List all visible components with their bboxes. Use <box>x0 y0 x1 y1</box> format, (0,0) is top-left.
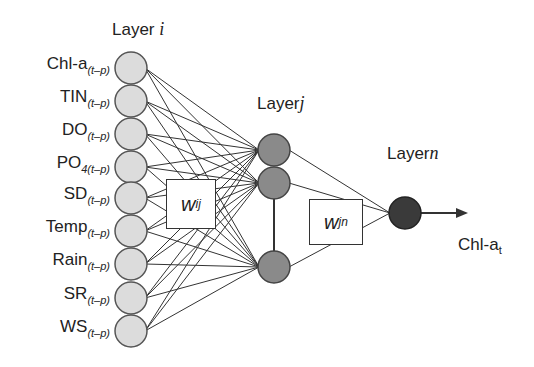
input-label: Rain(t–p) <box>52 250 110 272</box>
input-node <box>115 315 147 347</box>
hidden-node <box>258 251 290 283</box>
input-label: SR(t–p) <box>64 284 110 306</box>
input-label: PO4(t–p) <box>57 153 110 175</box>
input-node <box>115 52 147 84</box>
hidden-node <box>258 167 290 199</box>
weight-box-jn: wjn <box>309 199 363 245</box>
input-node <box>115 182 147 214</box>
input-label: WS(t–p) <box>60 317 110 339</box>
input-label: TIN(t–p) <box>60 87 110 109</box>
input-label: SD(t–p) <box>64 184 110 206</box>
input-node <box>115 151 147 183</box>
output-layer-title: Layern <box>387 143 439 164</box>
input-node <box>115 85 147 117</box>
input-label: Temp(t–p) <box>46 217 110 239</box>
hidden-node <box>258 134 290 166</box>
input-label: Chl-a(t–p) <box>47 54 110 76</box>
hidden-layer-title: Layerj <box>257 93 305 114</box>
input-node <box>115 282 147 314</box>
input-node <box>115 118 147 150</box>
input-node <box>115 248 147 280</box>
output-label: Chl-at <box>458 235 502 256</box>
ann-diagram: Layer i Layerj Layern Chl-a(t–p)TIN(t–p)… <box>0 0 534 367</box>
input-node <box>115 215 147 247</box>
weight-box-ij: wij <box>166 179 216 229</box>
output-node <box>389 197 421 229</box>
input-layer-title: Layer i <box>112 19 164 40</box>
input-label: DO(t–p) <box>62 120 110 142</box>
